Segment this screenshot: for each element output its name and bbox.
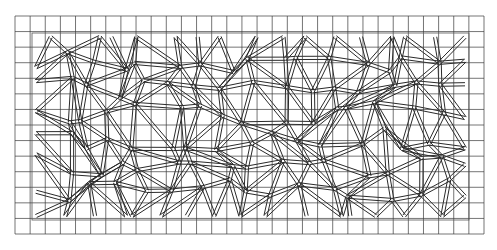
tiling-drawing [0, 0, 497, 250]
paving-pattern-svg [0, 0, 497, 250]
